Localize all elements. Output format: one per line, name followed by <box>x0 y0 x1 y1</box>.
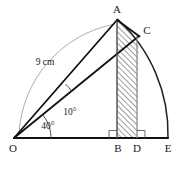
vertex-label-D: D <box>133 142 141 154</box>
right-angle-B <box>109 131 117 139</box>
vertex-label-O: O <box>9 142 17 154</box>
angle-arc-10 <box>66 84 73 92</box>
geometry-figure-container: O A C B D E 40° 10° 9 cm <box>0 0 189 170</box>
dimension-label-9cm: 9 cm <box>36 57 55 67</box>
angle-label-10: 10° <box>63 107 77 117</box>
right-angle-D <box>137 131 145 139</box>
vertex-label-C: C <box>143 24 150 36</box>
segment-OA <box>14 20 117 138</box>
dimension-arc-9cm <box>19 24 115 134</box>
geometry-figure-svg: O A C B D E 40° 10° 9 cm <box>0 0 189 170</box>
vertex-label-A: A <box>113 3 121 15</box>
vertex-label-B: B <box>114 142 121 154</box>
angle-label-40: 40° <box>41 121 55 131</box>
vertex-label-E: E <box>165 142 172 154</box>
